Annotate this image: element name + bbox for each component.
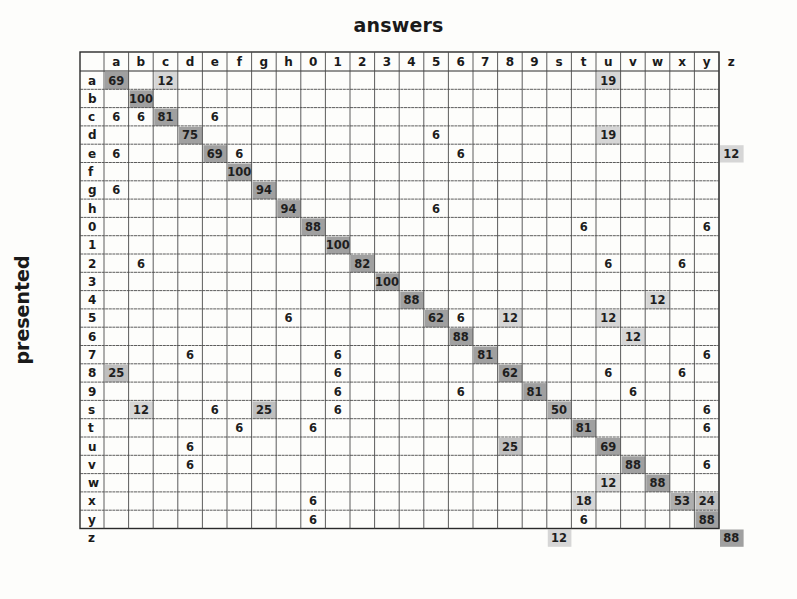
column-label-9: 9 [530, 55, 538, 69]
cell-value-v-d: 6 [186, 458, 194, 472]
row-label-e: e [88, 147, 96, 161]
cell-value-u-8: 25 [502, 440, 518, 454]
cell-value-6-6: 88 [453, 330, 469, 344]
cell-value-y-t: 6 [580, 513, 588, 527]
cell-value-7-d: 6 [186, 348, 194, 362]
row-label-6: 6 [88, 330, 96, 344]
cell-value-s-g: 25 [256, 403, 272, 417]
row-label-s: s [88, 403, 95, 417]
row-label-5: 5 [88, 311, 96, 325]
row-label-z: z [88, 531, 95, 545]
row-label-2: 2 [88, 257, 96, 271]
cell-value-t-f: 6 [235, 421, 243, 435]
cell-value-c-e: 6 [211, 110, 219, 124]
cell-value-x-t: 18 [576, 494, 592, 508]
cell-value-f-f: 100 [227, 165, 251, 179]
cell-value-a-a: 69 [108, 74, 124, 88]
cell-value-9-6: 6 [457, 385, 465, 399]
column-label-c: c [162, 55, 169, 69]
column-label-y: y [703, 55, 711, 69]
cell-value-7-y: 6 [703, 348, 711, 362]
cell-value-3-3: 100 [375, 275, 399, 289]
cell-value-e-6: 6 [457, 147, 465, 161]
cell-value-v-y: 6 [703, 458, 711, 472]
column-label-u: u [604, 55, 613, 69]
row-label-8: 8 [88, 366, 96, 380]
cell-value-8-x: 6 [678, 366, 686, 380]
cell-value-2-u: 6 [604, 257, 612, 271]
column-label-d: d [186, 55, 195, 69]
cell-value-s-1: 6 [334, 403, 342, 417]
row-label-d: d [88, 128, 97, 142]
cell-value-v-v: 88 [625, 458, 641, 472]
cell-value-s-b: 12 [133, 403, 149, 417]
cell-value-e-a: 6 [112, 147, 120, 161]
cell-value-2-x: 6 [678, 257, 686, 271]
column-label-t: t [581, 55, 587, 69]
cell-value-5-5: 62 [428, 311, 444, 325]
cell-value-8-a: 25 [108, 366, 124, 380]
cell-value-0-y: 6 [703, 220, 711, 234]
column-label-2: 2 [358, 55, 366, 69]
cell-value-9-9: 81 [526, 385, 542, 399]
cell-value-u-d: 6 [186, 440, 194, 454]
cell-value-4-w: 12 [649, 293, 665, 307]
column-label-4: 4 [407, 55, 415, 69]
column-label-b: b [137, 55, 146, 69]
cell-value-2-2: 82 [354, 257, 370, 271]
cell-value-u-u: 69 [600, 440, 616, 454]
cell-value-a-c: 12 [157, 74, 173, 88]
cell-value-s-e: 6 [211, 403, 219, 417]
cell-value-5-h: 6 [284, 311, 292, 325]
cell-value-8-u: 6 [604, 366, 612, 380]
column-label-0: 0 [309, 55, 317, 69]
cell-value-c-c: 81 [157, 110, 173, 124]
column-label-z: z [728, 55, 735, 69]
row-label-0: 0 [88, 220, 96, 234]
cell-value-c-b: 6 [137, 110, 145, 124]
row-label-v: v [88, 458, 96, 472]
column-label-e: e [211, 55, 219, 69]
cell-value-s-y: 6 [703, 403, 711, 417]
row-label-7: 7 [88, 348, 96, 362]
column-label-5: 5 [432, 55, 440, 69]
cell-value-x-y: 24 [699, 494, 715, 508]
cell-value-h-h: 94 [280, 202, 296, 216]
row-label-w: w [88, 476, 99, 490]
cell-value-x-0: 6 [309, 494, 317, 508]
column-label-v: v [629, 55, 637, 69]
cell-value-a-u: 19 [600, 74, 616, 88]
cell-value-h-5: 6 [432, 202, 440, 216]
cell-value-8-1: 6 [334, 366, 342, 380]
column-label-a: a [112, 55, 120, 69]
cell-value-7-1: 6 [334, 348, 342, 362]
cell-value-b-b: 100 [129, 92, 153, 106]
cell-value-w-w: 88 [649, 476, 665, 490]
cell-value-2-b: 6 [137, 257, 145, 271]
cell-value-c-a: 6 [112, 110, 120, 124]
cell-value-z-z: 88 [723, 531, 739, 545]
row-label-g: g [88, 183, 97, 197]
cell-value-1-1: 100 [326, 238, 350, 252]
row-label-3: 3 [88, 275, 96, 289]
cell-value-5-6: 6 [457, 311, 465, 325]
cell-value-e-z: 12 [723, 147, 739, 161]
column-label-3: 3 [383, 55, 391, 69]
row-label-4: 4 [88, 293, 96, 307]
cell-value-5-8: 12 [502, 311, 518, 325]
column-label-s: s [556, 55, 563, 69]
cell-value-6-v: 12 [625, 330, 641, 344]
cell-value-g-g: 94 [256, 183, 272, 197]
cell-value-g-a: 6 [112, 183, 120, 197]
cell-value-y-y: 88 [699, 513, 715, 527]
column-label-x: x [678, 55, 686, 69]
cell-value-t-y: 6 [703, 421, 711, 435]
row-label-y: y [88, 513, 96, 527]
cell-value-t-t: 81 [576, 421, 592, 435]
cell-value-d-d: 75 [182, 128, 198, 142]
cell-value-e-e: 69 [207, 147, 223, 161]
column-label-1: 1 [334, 55, 342, 69]
row-label-u: u [88, 440, 97, 454]
row-label-b: b [88, 92, 97, 106]
row-label-t: t [88, 421, 94, 435]
